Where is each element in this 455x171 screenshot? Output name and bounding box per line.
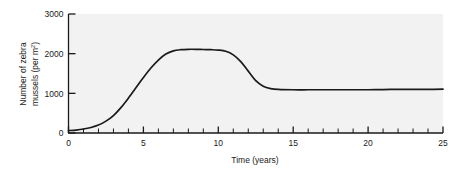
- x-tick-label: 15: [288, 138, 298, 148]
- y-tick-label: 1000: [45, 89, 64, 99]
- y-axis-tick-labels: 0100020003000: [45, 9, 64, 138]
- plot-area-background: [68, 14, 443, 133]
- y-axis-title-line2-main: mussels (per m: [30, 48, 40, 106]
- x-axis-title: Time (years): [231, 155, 279, 165]
- x-tick-label: 25: [438, 138, 448, 148]
- y-axis-title-line2: mussels (per m2): [30, 42, 40, 106]
- x-tick-label: 0: [66, 138, 71, 148]
- chart-figure: 0100020003000 0510152025 Number of zebra…: [0, 0, 455, 171]
- x-axis-tick-labels: 0510152025: [66, 138, 448, 148]
- x-tick-label: 20: [363, 138, 373, 148]
- zebra-mussel-population-chart: 0100020003000 0510152025 Number of zebra…: [0, 0, 455, 171]
- y-axis-title: Number of zebra mussels (per m2): [18, 42, 40, 106]
- y-axis-title-line1: Number of zebra: [18, 42, 28, 106]
- y-tick-label: 3000: [45, 9, 64, 19]
- y-axis-title-suffix: ): [30, 42, 40, 45]
- x-tick-label: 10: [214, 138, 224, 148]
- y-tick-label: 0: [59, 128, 64, 138]
- y-tick-label: 2000: [45, 49, 64, 59]
- x-tick-label: 5: [141, 138, 146, 148]
